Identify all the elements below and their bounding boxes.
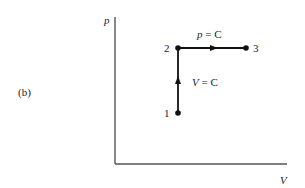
process-label-v-const: V = C bbox=[192, 76, 218, 88]
pv-diagram: (b) p V 1 2 3 V = C p = C bbox=[0, 0, 305, 188]
arrow-up-icon bbox=[175, 76, 181, 84]
panel-label: (b) bbox=[18, 86, 31, 99]
point-label-2: 2 bbox=[164, 42, 170, 54]
state-point-3 bbox=[243, 45, 249, 51]
state-point-2 bbox=[175, 45, 181, 51]
process-label-p-const: p = C bbox=[196, 28, 222, 40]
y-axis-label: p bbox=[103, 14, 110, 26]
arrow-right-icon bbox=[210, 45, 218, 51]
state-point-1 bbox=[175, 110, 181, 116]
point-label-3: 3 bbox=[253, 42, 259, 54]
point-label-1: 1 bbox=[164, 107, 170, 119]
x-axis-label: V bbox=[280, 174, 288, 186]
